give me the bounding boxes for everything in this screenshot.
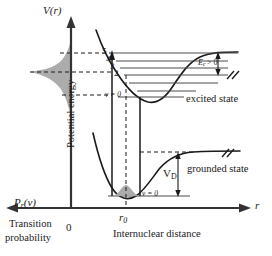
excess-energy-sub: c	[203, 61, 206, 67]
equilibrium-distance-sub: 0	[123, 216, 127, 225]
x-axis-name: Internuclear distance	[113, 229, 201, 240]
ground-asymptote-break-mark	[222, 149, 234, 157]
x-axis-arrowhead-right	[239, 204, 251, 213]
x-axis-label: r	[255, 200, 259, 211]
ground-state-v0-label: v = 0	[142, 190, 158, 198]
y-axis-label: V(r)	[43, 5, 61, 16]
excess-energy-rel: > 0	[207, 58, 218, 67]
vibrational-level-label-2: 2	[114, 69, 119, 78]
excess-energy-label: Ec> 0	[198, 59, 217, 68]
equilibrium-distance-label: r0	[119, 212, 127, 225]
excited-asymptote-break-mark	[227, 71, 239, 79]
left-axis-name-line2: probability	[5, 233, 51, 244]
excited-state-v0-label: v = 0	[105, 91, 121, 99]
ground-state-label-text: grounded state	[187, 164, 249, 175]
franck-condon-diagram: V(r) Potential energy r Internuclear dis…	[0, 0, 272, 256]
left-axis-label: Pr(v)	[14, 197, 36, 210]
left-axis-name-line1: Transition	[9, 219, 52, 230]
dissociation-energy-label: VD	[163, 168, 177, 181]
origin-label: 0	[66, 222, 72, 233]
left-axis-label-arg: (v)	[24, 196, 36, 208]
excited-state-label: excited state	[186, 94, 238, 105]
y-axis-arrowhead	[67, 16, 76, 28]
dissociation-energy-sub: D	[171, 172, 177, 181]
y-axis-name: Potential energy	[66, 80, 77, 148]
